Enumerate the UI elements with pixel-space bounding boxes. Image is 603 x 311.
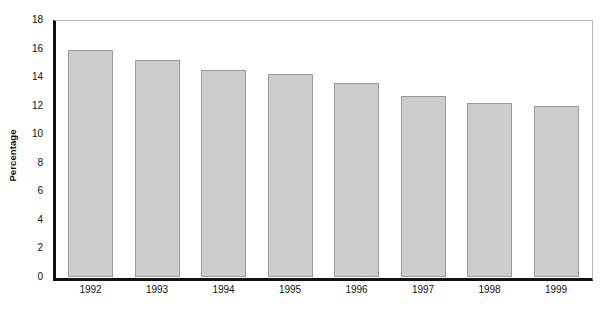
y-axis-title-label: Percentage	[7, 129, 18, 181]
y-axis-tick-label: 12	[32, 99, 43, 113]
bar-1994	[201, 70, 246, 277]
bar-1995	[268, 74, 313, 277]
y-axis-tick-label: 0	[37, 270, 43, 284]
bar-1998	[467, 103, 512, 277]
x-axis-tick-label: 1996	[334, 283, 379, 297]
bar-1997	[401, 96, 446, 277]
y-axis-tick-label: 16	[32, 42, 43, 56]
bar-1999	[534, 106, 579, 277]
x-axis-tick-label: 1994	[201, 283, 246, 297]
y-axis-tick-label: 14	[32, 70, 43, 84]
x-axis-tick-label: 1992	[68, 283, 113, 297]
bar-chart-figure: Percentage 024681012141618 1992199319941…	[0, 0, 603, 311]
y-axis-tick-label: 10	[32, 127, 43, 141]
x-axis-tick-label: 1998	[467, 283, 512, 297]
x-axis-tick-label: 1993	[135, 283, 180, 297]
bar-1993	[135, 60, 180, 277]
y-axis-tick-label: 4	[37, 213, 43, 227]
y-axis-tick-label: 2	[37, 241, 43, 255]
y-axis-tick-label: 18	[32, 13, 43, 27]
y-axis-tick-label: 6	[37, 184, 43, 198]
x-axis-tick-label: 1999	[534, 283, 579, 297]
bar-1996	[334, 83, 379, 277]
x-axis-tick-label: 1995	[268, 283, 313, 297]
bar-1992	[68, 50, 113, 277]
bars-layer	[56, 20, 589, 277]
y-axis-tick-label: 8	[37, 156, 43, 170]
y-axis-title: Percentage	[2, 0, 22, 311]
x-axis-labels: 19921993199419951996199719981999	[56, 283, 589, 303]
x-axis-tick-label: 1997	[401, 283, 446, 297]
